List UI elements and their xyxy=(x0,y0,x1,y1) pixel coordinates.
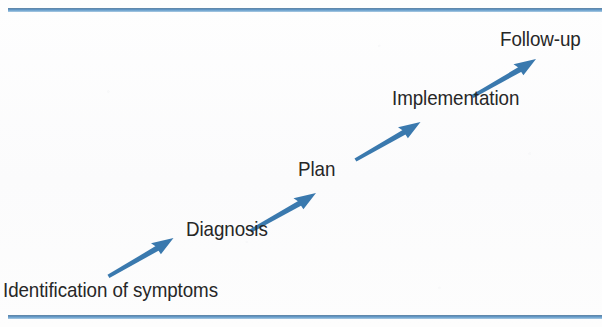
arrow-identification-to-diagnosis xyxy=(108,238,174,278)
arrow-plan-to-implementation xyxy=(355,122,421,162)
top-horizontal-rule xyxy=(8,8,602,12)
stage-label-follow-up: Follow-up xyxy=(500,28,581,49)
bottom-horizontal-rule xyxy=(8,315,602,319)
diagram-canvas: Identification of symptoms Diagnosis Pla… xyxy=(0,0,602,327)
stage-label-diagnosis: Diagnosis xyxy=(186,218,268,239)
stage-label-identification-of-symptoms: Identification of symptoms xyxy=(3,279,218,300)
stage-label-plan: Plan xyxy=(298,158,335,179)
stage-label-implementation: Implementation xyxy=(392,87,519,108)
